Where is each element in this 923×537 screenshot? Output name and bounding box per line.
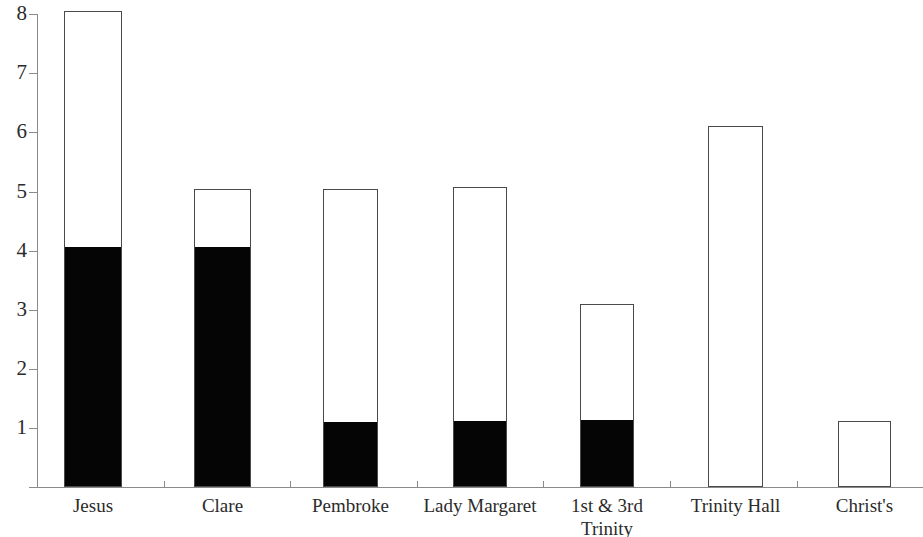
bar	[453, 187, 507, 487]
y-axis-tick-label: 7	[1, 62, 27, 83]
y-axis-tick-label: 3	[1, 299, 27, 320]
y-axis-tick-label: 1	[1, 417, 27, 438]
bar	[64, 11, 122, 487]
x-axis-tick	[797, 481, 798, 488]
x-axis-category-label: Christ's	[775, 494, 923, 517]
bar-filled-segment	[581, 420, 633, 486]
bar	[580, 304, 634, 487]
bar-filled-segment	[195, 247, 250, 486]
bar	[708, 126, 763, 487]
bar-filled-segment	[65, 247, 121, 486]
y-axis-line	[37, 14, 38, 488]
y-axis-tick-label: 2	[1, 358, 27, 379]
y-axis-tick	[29, 428, 37, 429]
x-axis-tick	[290, 481, 291, 488]
bar	[323, 189, 378, 487]
bar-filled-segment	[454, 421, 506, 486]
y-axis-tick	[29, 14, 37, 15]
x-axis-tick	[164, 481, 165, 488]
bar-chart: 87654321 JesusClarePembrokeLady Margaret…	[0, 0, 923, 537]
y-axis-tick-label: 5	[1, 181, 27, 202]
x-axis-tick	[417, 481, 418, 488]
y-axis-tick	[29, 73, 37, 74]
y-axis-tick	[29, 369, 37, 370]
x-axis-tick	[543, 481, 544, 488]
bar	[194, 189, 251, 487]
y-axis-tick	[29, 192, 37, 193]
y-axis-tick-label: 8	[1, 3, 27, 24]
y-axis-tick-label: 4	[1, 240, 27, 261]
x-axis-tick	[670, 481, 671, 488]
y-axis-tick	[29, 132, 37, 133]
bar	[838, 421, 891, 487]
y-axis-tick	[29, 251, 37, 252]
bar-filled-segment	[324, 422, 377, 486]
y-axis-tick	[29, 310, 37, 311]
x-axis-tick	[37, 481, 38, 488]
y-axis-tick-label: 6	[1, 121, 27, 142]
